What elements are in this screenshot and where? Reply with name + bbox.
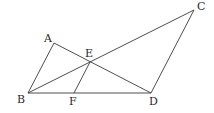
point-labels: A B C D E F <box>17 0 205 108</box>
label-B: B <box>17 93 25 106</box>
segments <box>28 10 194 93</box>
geometry-diagram: A B C D E F <box>0 0 214 113</box>
label-A: A <box>43 32 53 45</box>
label-F: F <box>69 95 77 108</box>
segment-EF <box>74 62 90 93</box>
label-C: C <box>197 0 205 13</box>
segment-AD <box>54 43 151 93</box>
segment-BC <box>28 10 194 93</box>
label-E: E <box>85 47 93 60</box>
segment-CD <box>151 10 194 93</box>
segment-AB <box>28 43 54 93</box>
label-D: D <box>149 95 158 108</box>
